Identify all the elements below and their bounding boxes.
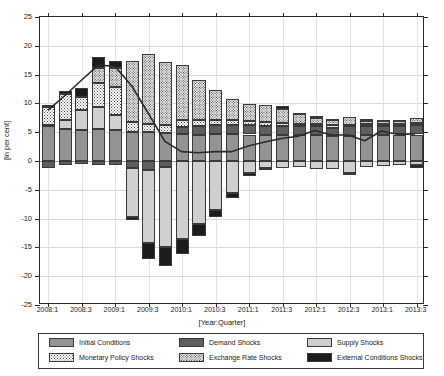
bar-segment-external [42,105,55,108]
bar-segment-external [360,119,373,121]
bar-segment-initial [176,134,189,161]
bar-segment-initial [310,135,323,161]
bar-segment-supply [393,161,406,165]
bar-segment-external [192,224,205,236]
bar-segment-exchange [176,65,189,120]
bar-segment-monetary [343,125,356,127]
bar-segment-supply [142,170,155,244]
bar-segment-supply [75,110,88,130]
legend-label-initial: Initial Conditions [79,339,130,346]
bar-segment-external [326,119,339,121]
bar-segment-exchange [276,109,289,123]
bar-segment-demand [393,126,406,135]
y-tick-5 [35,132,40,133]
bar-segment-initial [142,132,155,161]
bar-segment-monetary [276,123,289,126]
bar-segment-external [243,173,256,176]
bar-segment-initial [109,130,122,161]
bar-segment-initial [377,135,390,161]
bar-segment-exchange [310,118,323,124]
legend-item-external[interactable]: External Conditions Shocks [307,353,423,362]
bar-column [276,17,289,303]
bar-column [360,17,373,303]
bar-segment-demand [326,128,339,136]
y-tick-right-5 [423,132,428,133]
bar-segment-initial [276,135,289,161]
bar-column [410,17,423,303]
bar-segment-initial [326,136,339,161]
x-tick-top-2013:3 [417,13,418,17]
bar-segment-demand [75,161,88,164]
bar-segment-initial [293,135,306,161]
chart-legend: Initial ConditionsDemand ShocksSupply Sh… [38,333,424,369]
bar-segment-exchange [226,99,239,120]
y-tick--5 [35,190,40,191]
bar-column [159,17,172,303]
bar-column [192,17,205,303]
bar-segment-monetary [226,120,239,125]
legend-item-demand[interactable]: Demand Shocks [179,338,260,347]
bar-segment-demand [209,125,222,134]
y-tick-label-15: 15 [0,69,32,78]
bar-segment-external [109,61,122,68]
y-tick-right-20 [423,46,428,47]
legend-item-supply[interactable]: Supply Shocks [307,338,383,347]
bar-segment-external [377,120,390,122]
bar-column [377,17,390,303]
bar-segment-initial [192,135,205,161]
y-tick-label--25: -25 [0,300,32,309]
bar-segment-monetary [75,97,88,110]
bar-segment-supply [59,120,72,129]
x-tick-label-2010:1: 2010:1 [171,306,192,313]
bar-segment-supply [276,161,289,168]
bar-segment-external [92,57,105,67]
bar-segment-external [226,193,239,199]
bar-segment-external [259,168,272,170]
bar-column [126,17,139,303]
legend-item-initial[interactable]: Initial Conditions [49,338,130,347]
y-tick-label--15: -15 [0,242,32,251]
bar-segment-exchange [259,105,272,122]
y-tick-right-10 [423,103,428,104]
x-tick-top-2012:1 [316,13,317,17]
bar-segment-supply [192,161,205,224]
bar-segment-supply [326,161,339,169]
bar-column [243,17,256,303]
bar-segment-demand [293,126,306,134]
bar-segment-external [75,88,88,97]
legend-item-exchange[interactable]: Exchange Rate Shocks [179,353,282,362]
bar-segment-supply [126,168,139,216]
bar-segment-monetary [176,120,189,127]
bar-segment-demand [410,125,423,134]
x-tick-top-2008:3 [82,13,83,17]
bar-column [75,17,88,303]
bar-segment-supply [42,125,55,127]
bar-segment-supply [293,161,306,167]
y-tick-right--20 [423,276,428,277]
bar-segment-supply [243,161,256,173]
bar-segment-initial [343,136,356,161]
y-tick-label-5: 5 [0,127,32,136]
legend-label-external: External Conditions Shocks [337,354,423,361]
bar-segment-monetary [310,124,323,126]
bar-segment-initial [209,134,222,161]
y-tick-label--5: -5 [0,184,32,193]
legend-item-monetary[interactable]: Monetary Policy Shocks [49,353,154,362]
bar-segment-monetary [293,124,306,127]
bar-segment-supply [360,161,373,167]
x-tick-label-2011:1: 2011:1 [238,306,259,313]
x-tick-label-2011:3: 2011:3 [271,306,292,313]
legend-row-bottom: Monetary Policy ShocksExchange Rate Shoc… [39,353,423,367]
y-tick-right-25 [423,17,428,18]
x-tick-top-2013:1 [383,13,384,17]
legend-label-supply: Supply Shocks [337,339,383,346]
bar-segment-demand [276,126,289,135]
bar-segment-supply [226,161,239,193]
x-tick-top-2010:1 [182,13,183,17]
bar-segment-initial [410,135,423,161]
x-tick-top-2011:3 [283,13,284,17]
bar-segment-initial [243,135,256,161]
bar-segment-external [293,113,306,115]
bar-segment-exchange [293,114,306,123]
bar-segment-initial [226,134,239,161]
